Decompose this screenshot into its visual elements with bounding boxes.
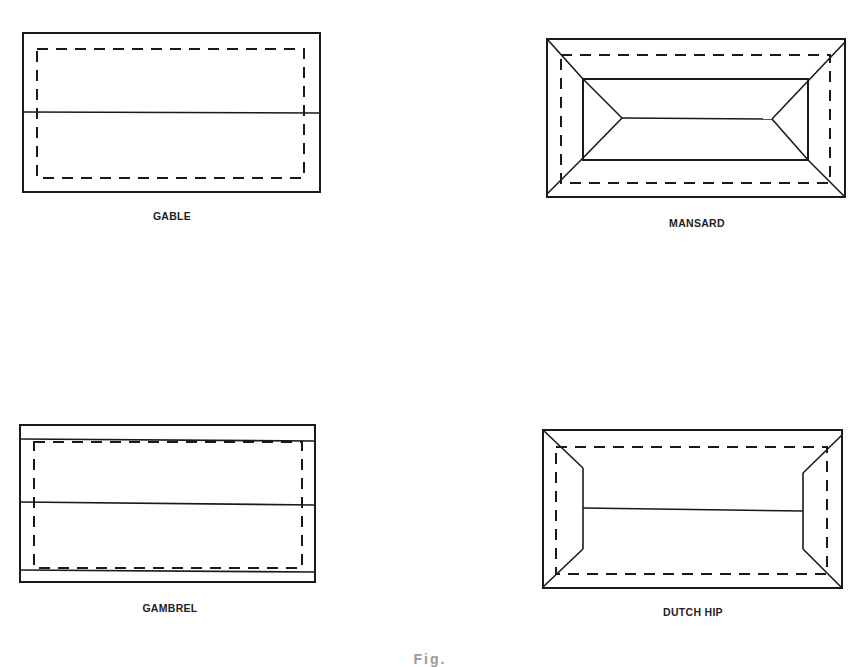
ridge-or-hip-line <box>20 502 315 505</box>
ridge-or-hip-line <box>23 112 320 113</box>
ridge-or-hip-line <box>547 158 583 194</box>
ridge-or-hip-line <box>583 508 803 511</box>
mansard-label: MANSARD <box>669 217 725 229</box>
gable-label: GABLE <box>153 210 191 222</box>
mansard-roof-plan <box>547 39 845 197</box>
ridge-or-hip-line <box>772 119 808 160</box>
gambrel-roof-plan <box>20 425 315 582</box>
ridge-or-hip-line <box>543 430 583 468</box>
dutch-hip-roof-plan <box>543 430 842 588</box>
ridge-or-hip-line <box>808 160 845 197</box>
ridge-or-hip-line <box>803 435 842 473</box>
ridge-or-hip-line <box>772 81 808 119</box>
ridge-or-hip-line <box>808 42 845 81</box>
ridge-or-hip-line <box>583 79 622 118</box>
ridge-or-hip-line <box>803 549 842 588</box>
ridge-or-hip-line <box>547 39 583 79</box>
gable-roof-plan <box>23 33 320 192</box>
ridge-or-hip-line <box>543 549 583 587</box>
ridge-or-hip-line <box>20 570 315 572</box>
figure-caption-truncated: Fig. <box>414 651 447 667</box>
dutch-hip-label: DUTCH HIP <box>663 606 723 618</box>
ridge-or-hip-line <box>20 439 315 441</box>
ridge-or-hip-line <box>583 118 622 158</box>
gambrel-label: GAMBREL <box>142 602 197 614</box>
ridge-or-hip-line <box>622 118 772 119</box>
upper-roof-outline <box>583 79 808 160</box>
